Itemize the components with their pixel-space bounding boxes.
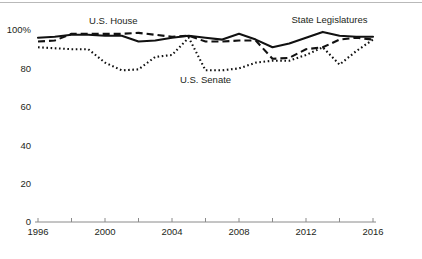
y-tick-label: 80 <box>20 63 31 74</box>
y-tick-label: 20 <box>20 178 31 189</box>
series-annotations: U.S. HouseU.S. SenateState Legislatures <box>89 14 368 85</box>
series-line-u-s-senate <box>38 38 373 71</box>
series-label-u-s-house: U.S. House <box>89 15 138 26</box>
x-tick-label: 2000 <box>94 226 115 237</box>
x-axis <box>35 218 376 222</box>
series-line-state-legislatures <box>38 32 373 47</box>
series-label-u-s-senate: U.S. Senate <box>180 74 231 85</box>
series-lines <box>38 32 373 70</box>
x-tick-label: 2016 <box>362 226 383 237</box>
x-tick-label: 2004 <box>161 226 182 237</box>
x-axis-tick-labels: 199620002004200820122016 <box>27 226 383 237</box>
y-axis-tick-labels: 020406080100% <box>7 24 32 227</box>
y-tick-label: 60 <box>20 101 31 112</box>
y-tick-label: 40 <box>20 140 31 151</box>
series-label-state-legislatures: State Legislatures <box>291 14 367 25</box>
x-tick-label: 2008 <box>228 226 249 237</box>
x-tick-label: 1996 <box>27 226 48 237</box>
line-chart: 020406080100% 199620002004200820122016 U… <box>0 0 422 259</box>
x-tick-label: 2012 <box>295 226 316 237</box>
y-tick-label: 100% <box>7 24 32 35</box>
